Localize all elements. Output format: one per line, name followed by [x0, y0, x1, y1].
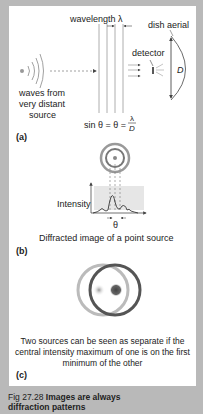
source-label-line1: waves from	[19, 88, 65, 98]
panel-c-label: (c)	[16, 370, 27, 380]
point-source-icon	[20, 54, 44, 88]
panel-b-caption: Diffracted image of a point source	[39, 233, 173, 243]
panel-b-label: (b)	[16, 246, 28, 256]
diameter-label: D	[177, 65, 184, 75]
wavefront-lines	[99, 24, 123, 113]
figure-title-line2: diffraction patterns	[8, 402, 85, 412]
intensity-label: Intensity	[57, 199, 91, 209]
detector-icon	[150, 60, 164, 76]
detector-label: detector	[132, 48, 165, 58]
panel-c-caption-line1: Two sources can be seen as separate if t…	[9, 336, 196, 346]
panel-c-caption-line2: central intensity maximum of one is on t…	[9, 347, 196, 357]
theta-label: θ	[113, 220, 118, 230]
dish-aerial-label: dish aerial	[148, 20, 189, 30]
figure-caption: Fig 27.28 Images are always diffraction …	[8, 392, 121, 412]
figure-number: Fig 27.28	[8, 392, 43, 402]
intensity-shade	[94, 186, 144, 210]
incoming-arrows	[128, 65, 140, 76]
wavelength-label: wavelength	[70, 14, 116, 24]
formula-numerator: λ	[130, 114, 134, 124]
formula: sin θ = θ =	[84, 120, 126, 130]
lambda-symbol: λ	[118, 14, 123, 24]
figure-title-line1: Images are always	[46, 392, 121, 402]
panel-a-label: (a)	[16, 132, 27, 142]
panel-c-caption-line3: minimum of the other	[9, 358, 196, 368]
formula-denominator: D	[129, 124, 135, 134]
overlapping-diffraction-patterns	[78, 265, 140, 315]
source-label-line3: source	[29, 110, 56, 120]
source-label-line2: very distant	[19, 99, 65, 109]
airy-rings-icon	[101, 144, 129, 172]
